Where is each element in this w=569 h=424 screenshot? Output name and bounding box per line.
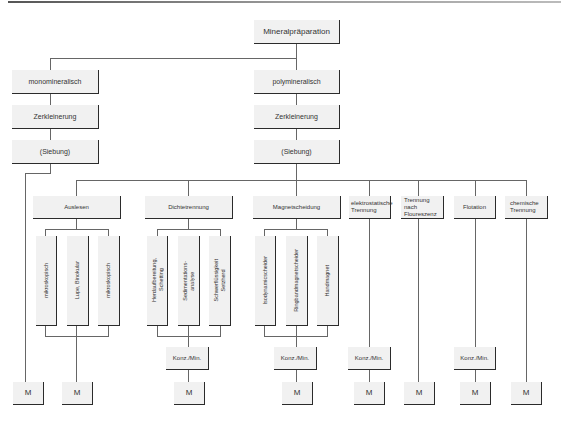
connector [369, 369, 370, 382]
sub-node: Schwerflüssigkeit Setzherd [209, 236, 231, 326]
connector [369, 180, 370, 196]
connector [76, 218, 77, 229]
method-dichtetrennung: Dichtetrennung [145, 196, 233, 219]
node-label: M [366, 389, 373, 397]
connector [296, 93, 297, 105]
connector [327, 229, 328, 236]
konz-node: Konz./Min. [454, 347, 496, 370]
connector [296, 218, 297, 229]
poly-siebung-node: (Siebung) [254, 140, 340, 164]
sub-node: Lupe, Binokular [67, 236, 89, 326]
connector [157, 325, 158, 336]
connector [264, 229, 328, 230]
node-label: Trennung nach Floureszenz [404, 197, 443, 218]
connector [188, 218, 189, 229]
node-label: chemische Trennung [510, 200, 539, 214]
sub-node: Isodynamicscheider [255, 236, 276, 326]
sub-node: Handmagnet [317, 236, 339, 326]
connector [220, 325, 221, 336]
root-node: Mineralpräparation [254, 20, 340, 44]
connector [157, 229, 158, 236]
node-label: Konz./Min. [281, 355, 309, 362]
result-m: M [13, 382, 44, 405]
connector [50, 58, 297, 59]
connector [264, 229, 265, 236]
node-label: Ringbandmagnetscheider [293, 249, 300, 312]
method-elektrostatisch: elektrostatische Trennung [349, 196, 391, 219]
result-m: M [354, 382, 385, 405]
connector [418, 180, 419, 196]
connector [45, 229, 46, 236]
connector [220, 229, 221, 236]
node-label: M [25, 389, 32, 397]
connector [45, 229, 109, 230]
node-label: elektrostatische Trennung [351, 200, 393, 214]
sub-node: Ringbandmagnetscheider [286, 236, 308, 326]
sub-node: mikroskopisch [36, 236, 57, 326]
connector [188, 325, 189, 347]
node-label: Handmagnet [324, 265, 331, 297]
node-label: M [74, 389, 81, 397]
result-m: M [460, 382, 491, 405]
node-label: monomineralisch [29, 78, 82, 86]
method-floureszenz: Trennung nach Floureszenz [401, 196, 444, 219]
connector [475, 180, 476, 196]
connector [76, 180, 77, 196]
sub-node: Sedimentations- analyse [178, 236, 200, 326]
connector [327, 325, 328, 336]
method-auslesen: Auslesen [33, 196, 121, 219]
method-chemisch: chemische Trennung [505, 196, 548, 219]
connector [50, 94, 51, 105]
connector [296, 128, 297, 140]
node-label: Lupe, Binokular [74, 261, 81, 299]
connector [108, 325, 109, 336]
node-label: mikroskopisch [105, 263, 112, 298]
node-label: Schwerflüssigkeit Setzherd [213, 259, 226, 302]
node-label: Isodynamicscheider [262, 256, 269, 305]
konz-node: Konz./Min. [166, 347, 209, 370]
node-label: Mineralpräparation [263, 28, 330, 36]
node-label: polymineralisch [272, 78, 320, 86]
node-label: Konz./Min. [173, 355, 201, 362]
konz-node: Konz./Min. [274, 347, 317, 370]
mono-zerkleinerung-node: Zerkleinerung [12, 105, 99, 129]
top-rule [8, 1, 561, 3]
connector [25, 173, 51, 174]
connector [157, 229, 221, 230]
node-label: M [416, 389, 423, 397]
connector [25, 173, 26, 382]
result-m: M [404, 382, 435, 405]
connector [76, 325, 77, 382]
node-label: M [186, 389, 193, 397]
node-label: Herdaufbereitung, Schetting [151, 258, 164, 302]
connector [76, 180, 527, 181]
node-label: (Siebung) [281, 148, 311, 156]
sub-node: mikroskopisch [98, 236, 120, 326]
node-label: Magnetscheidung [273, 204, 320, 211]
node-label: (Siebung) [40, 148, 70, 156]
result-m: M [511, 382, 542, 405]
mono-node: monomineralisch [12, 70, 99, 94]
node-label: M [523, 389, 530, 397]
node-label: Sedimentations- analyse [182, 261, 195, 301]
method-flotation: Flotation [454, 196, 496, 219]
result-m: M [282, 382, 313, 405]
konz-node: Konz./Min. [348, 347, 391, 370]
sub-node: Herdaufbereitung, Schetting [147, 236, 168, 326]
connector [45, 336, 109, 337]
node-label: Zerkleinerung [34, 113, 77, 121]
node-label: mikroskopisch [43, 263, 50, 298]
node-label: M [294, 389, 301, 397]
method-magnetscheidung: Magnetscheidung [253, 196, 341, 219]
connector [296, 43, 297, 70]
connector [418, 218, 419, 382]
connector [526, 218, 527, 382]
node-label: Konz./Min. [460, 355, 488, 362]
connector [369, 218, 370, 347]
connector [475, 369, 476, 382]
connector [475, 218, 476, 347]
node-label: Auslesen [64, 204, 89, 211]
result-m: M [174, 382, 205, 405]
node-label: Flotation [463, 204, 486, 211]
node-label: Zerkleinerung [275, 113, 318, 121]
